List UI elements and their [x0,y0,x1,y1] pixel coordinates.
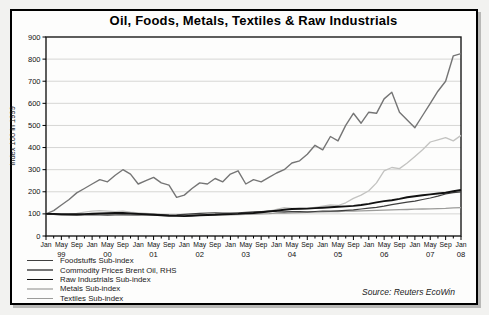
x-year-label: 05 [334,250,342,259]
x-tick-label: May [286,241,299,249]
x-tick-label: Jan [363,241,374,248]
x-tick-label: Sep [255,241,267,249]
legend-swatch-textiles [27,298,53,299]
legend-item-metals: Metals Sub-index [27,284,177,293]
x-tick-label: Jan [41,241,52,248]
legend-item-raw-industrials: Raw Industrials Sub-index [27,275,177,284]
y-tick-label: 500 [28,121,41,130]
x-tick-label: Jan [87,241,98,248]
x-tick-label: Sep [117,241,129,249]
x-tick-label: Sep [301,241,313,249]
y-tick-label: 400 [28,143,41,152]
x-tick-label: May [424,241,437,249]
chart-title: Oil, Foods, Metals, Textiles & Raw Indus… [46,13,461,28]
y-axis-title: Index 100 in 1999 [8,81,20,191]
legend-swatch-raw-industrials [27,279,53,281]
source-credit: Source: Reuters EcoWin [362,287,455,297]
legend: Foodstuffs Sub-index Commodity Prices Br… [27,256,177,303]
x-year-label: 08 [457,250,465,259]
x-tick-label: Sep [209,241,221,249]
x-tick-label: May [101,241,114,249]
y-tick-label: 100 [28,209,41,218]
series-line-commodity-prices-brent-oil-rhs [46,54,461,214]
chart-page: 0100200300400500600700800900JanMaySepJan… [0,0,489,315]
y-tick-label: 200 [28,187,41,196]
y-tick-label: 300 [28,165,41,174]
y-tick-label: 600 [28,99,41,108]
legend-item-brent-oil: Commodity Prices Brent Oil, RHS [27,265,177,274]
x-year-label: 06 [380,250,388,259]
x-year-label: 04 [288,250,296,259]
x-tick-label: Sep [71,241,83,249]
legend-swatch-brent-oil [27,269,53,270]
x-year-label: 07 [426,250,434,259]
legend-swatch-metals [27,288,53,289]
legend-item-foodstuffs: Foodstuffs Sub-index [27,256,177,265]
x-tick-label: Jan [409,241,420,248]
legend-item-textiles: Textiles Sub-index [27,294,177,303]
x-year-label: 03 [242,250,250,259]
x-tick-label: May [193,241,206,249]
x-tick-label: Jan [133,241,144,248]
x-tick-label: May [55,241,68,249]
x-tick-label: May [378,241,391,249]
y-tick-label: 700 [28,77,41,86]
legend-label-brent-oil: Commodity Prices Brent Oil, RHS [60,266,177,275]
x-tick-label: Sep [440,241,452,249]
x-tick-label: Jan [271,241,282,248]
x-tick-label: Sep [163,241,175,249]
legend-label-metals: Metals Sub-index [60,284,120,293]
legend-label-foodstuffs: Foodstuffs Sub-index [60,256,134,265]
y-tick-label: 800 [28,55,41,64]
x-tick-label: May [332,241,345,249]
y-tick-label: 900 [28,33,41,42]
x-tick-label: Jan [317,241,328,248]
x-tick-label: Jan [179,241,190,248]
legend-label-raw-industrials: Raw Industrials Sub-index [60,275,151,284]
x-tick-label: May [239,241,252,249]
legend-label-textiles: Textiles Sub-index [60,294,123,303]
x-tick-label: Jan [225,241,236,248]
x-tick-label: May [147,241,160,249]
x-tick-label: Sep [347,241,359,249]
legend-swatch-foodstuffs [27,260,53,261]
x-tick-label: Jan [456,241,467,248]
x-tick-label: Sep [393,241,405,249]
y-tick-label: 0 [36,232,40,241]
plot-border [46,37,461,236]
x-year-label: 02 [195,250,203,259]
